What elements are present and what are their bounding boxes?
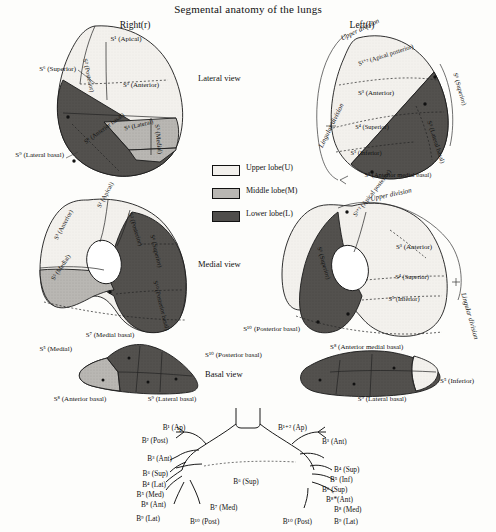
legend-label-middle-lobe: Middle lobe(M) (246, 187, 297, 195)
bronchus-label-right-2: B³ (Ant) (147, 455, 172, 463)
bronchus-label-b6-sup: B⁶ (Sup) (232, 478, 259, 486)
bronchus-label-right-8: B¹⁰ (Post) (190, 518, 219, 526)
left-medial-s8: S⁸ (Anterior medial basal) (330, 344, 403, 351)
right-basal-s5: S⁵ (Medial) (39, 346, 72, 353)
left-lateral-s5: S⁵ (Inferior) (350, 150, 381, 157)
bronchus-label-left-3: B⁵ (Inf) (330, 476, 353, 484)
legend-label-upper-lobe: Upper lobe(U) (246, 164, 293, 172)
legend-swatch-middle-lobe (212, 188, 240, 199)
left-basal-s5: S⁵ (Inferior) (440, 378, 474, 385)
bronchus-label-right-9: B⁷ (Med) (210, 504, 237, 512)
bronchus-label-right-6: B⁸ (Ant) (141, 501, 166, 509)
left-medial-s5: S⁵ (Inferior) (388, 296, 419, 303)
left-medial-s4: S⁴ (Superior) (395, 274, 429, 281)
bronchus-label-left-5: B⁸*(Ant) (326, 496, 353, 504)
left-basal-s9: S⁹ (Lateral basal) (358, 396, 407, 403)
bronchus-label-right-0: B¹ (Ap) (163, 424, 186, 432)
legend-swatch-upper-lobe (212, 165, 240, 176)
left-lateral-s3: S³ (Anterior) (358, 90, 394, 97)
right-basal-s9: S⁹ (Lateral basal) (148, 396, 197, 403)
bronchus-label-right-3: B⁶ (Sup) (143, 470, 168, 478)
bronchus-label-left-0: B¹⁺² (Ap) (278, 424, 307, 432)
bronchus-label-left-2: B⁴ (Sup) (334, 466, 359, 474)
legend-swatch-lower-lobe (212, 211, 240, 222)
bronchus-label-left-7: B⁹ (Lat) (334, 518, 358, 526)
right-medial-s7: S⁷ (Medial basal) (86, 332, 135, 339)
right-lateral-leaders (0, 0, 496, 532)
bronchus-label-left-6: B⁸ (Med) (334, 506, 361, 514)
lung-segmental-anatomy-figure: Segmental anatomy of the lungs Right(r) … (0, 0, 496, 532)
bronchus-label-left-1: B³ (Ant) (322, 438, 347, 446)
left-medial-s3: S³ (Anterior) (396, 244, 432, 251)
bronchus-label-right-7: B⁹ (Lat) (136, 515, 160, 523)
left-lateral-s4: S⁴ (Superior) (355, 124, 389, 131)
left-medial-s10: S¹⁰ (Posterior basal) (243, 326, 300, 333)
bronchus-label-left-4: B⁶ (Sup) (322, 486, 347, 494)
right-basal-s8: S⁸ (Anterior basal) (54, 396, 107, 403)
bronchus-label-right-4: B⁴ (Lat) (142, 481, 166, 489)
right-basal-s10: S¹⁰ (Posterior basal) (205, 352, 262, 359)
bronchus-label-right-1: B² (Post) (142, 437, 168, 445)
legend-label-lower-lobe: Lower lobe(L) (246, 210, 293, 218)
bronchus-label-left-8: B¹⁰ (Post) (283, 518, 312, 526)
left-lateral-s8: S⁸ (Anterior medial basal) (364, 172, 431, 179)
bronchus-label-right-5: B⁵ (Med) (137, 491, 164, 499)
